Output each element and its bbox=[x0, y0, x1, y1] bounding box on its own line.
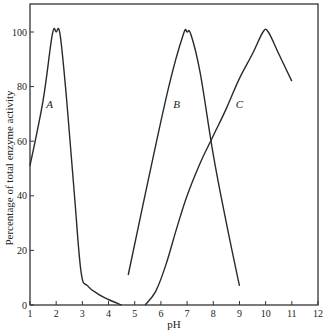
x-tick-label: 11 bbox=[287, 308, 297, 319]
y-tick-label: 20 bbox=[17, 245, 27, 256]
x-tick-label: 6 bbox=[158, 308, 163, 319]
curve-label-c: C bbox=[236, 98, 244, 110]
x-tick-label: 10 bbox=[261, 308, 271, 319]
x-tick-label: 8 bbox=[211, 308, 216, 319]
x-tick-label: 5 bbox=[132, 308, 137, 319]
curve-label-b: B bbox=[173, 98, 180, 110]
x-tick-label: 3 bbox=[80, 308, 85, 319]
curve-b bbox=[128, 30, 239, 286]
curve-a bbox=[30, 28, 122, 305]
curve-labels: ABC bbox=[45, 98, 244, 110]
y-axis-ticks: 020406080100 bbox=[12, 27, 34, 311]
y-axis-title: Percentage of total enzyme activity bbox=[3, 90, 15, 246]
x-tick-label: 9 bbox=[237, 308, 242, 319]
x-axis-title: pH bbox=[167, 318, 181, 330]
y-tick-label: 80 bbox=[17, 81, 27, 92]
plot-frame bbox=[30, 4, 318, 305]
y-tick-label: 60 bbox=[17, 136, 27, 147]
x-tick-label: 2 bbox=[54, 308, 59, 319]
x-tick-label: 12 bbox=[313, 308, 323, 319]
y-tick-label: 100 bbox=[12, 27, 27, 38]
y-tick-label: 0 bbox=[22, 300, 27, 311]
x-axis-ticks: 123456789101112 bbox=[28, 301, 324, 319]
plot-border bbox=[30, 4, 318, 305]
y-tick-label: 40 bbox=[17, 190, 27, 201]
curve-c bbox=[145, 29, 292, 305]
curve-label-a: A bbox=[45, 98, 53, 110]
enzyme-activity-chart: 123456789101112 020406080100 ABC pH Perc… bbox=[0, 0, 329, 334]
x-tick-label: 1 bbox=[28, 308, 33, 319]
x-tick-label: 7 bbox=[185, 308, 190, 319]
curves bbox=[30, 28, 292, 305]
x-tick-label: 4 bbox=[106, 308, 111, 319]
